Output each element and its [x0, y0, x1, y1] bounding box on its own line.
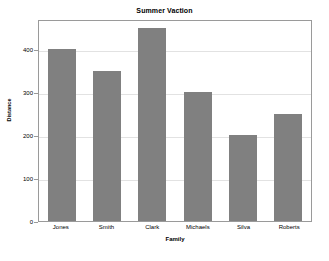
- chart-title: Summer Vaction: [0, 7, 329, 14]
- x-tick-label: Smith: [84, 224, 130, 236]
- y-tick-label: 100: [8, 176, 33, 182]
- y-tick-label: 400: [8, 47, 33, 53]
- bar-chart-figure: Summer Vaction 0100200300400 Distance Jo…: [0, 0, 329, 261]
- x-tick-label: Clark: [129, 224, 175, 236]
- x-tick-label: Michaels: [175, 224, 221, 236]
- x-axis-label: Family: [38, 236, 312, 242]
- y-axis-label: Distance: [6, 82, 12, 138]
- x-tick-label: Silva: [221, 224, 267, 236]
- y-axis-ticks: 0100200300400: [0, 20, 329, 222]
- x-tick-label: Jones: [38, 224, 84, 236]
- y-tick-label: 0: [8, 219, 33, 225]
- y-tick-mark: [34, 50, 38, 51]
- x-axis-ticks: JonesSmithClarkMichaelsSilvaRoberts: [38, 224, 312, 236]
- y-tick-mark: [34, 93, 38, 94]
- x-tick-label: Roberts: [266, 224, 312, 236]
- y-tick-mark: [34, 222, 38, 223]
- y-tick-mark: [34, 179, 38, 180]
- y-tick-mark: [34, 136, 38, 137]
